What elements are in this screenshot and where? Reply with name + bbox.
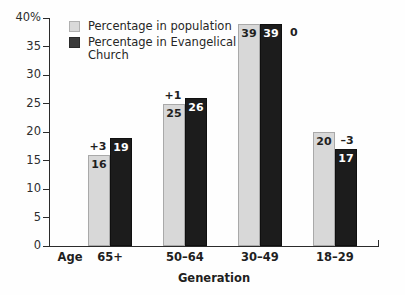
y-axis-tick-mark (43, 103, 50, 104)
y-axis-tick-mark (43, 75, 50, 76)
bar-evangelical-church-30-49: 39 (260, 24, 282, 246)
x-axis-category-label: 50–64 (149, 252, 221, 264)
delta-label: 0 (290, 27, 298, 38)
legend-label-population: Percentage in population (88, 20, 232, 33)
bar-evangelical-church-65-: 19 (110, 138, 132, 246)
bar-value-label: 19 (111, 142, 131, 153)
legend-label-evangelical-church: Percentage in Evangelical Church (88, 36, 259, 62)
y-axis-tick-label: 10 (1, 183, 41, 195)
bar-value-label: 16 (89, 159, 109, 170)
bar-evangelical-church-50-64: 26 (185, 98, 207, 246)
delta-label: –3 (336, 135, 358, 146)
y-axis-tick-label: 40% (1, 12, 41, 24)
x-axis-title: Generation (49, 273, 379, 285)
bar-value-label: 25 (164, 108, 184, 119)
bar-chart: 0510152025303540% Percentage in populati… (0, 0, 405, 295)
bar-value-label: 20 (314, 136, 334, 147)
x-axis-category-label: 18–29 (299, 252, 371, 264)
y-axis-tick-label: 15 (1, 155, 41, 167)
y-axis-tick-label: 25 (1, 98, 41, 110)
bar-value-label: 17 (336, 153, 356, 164)
y-axis-tick-mark (43, 132, 50, 133)
x-axis-category-label: 30–49 (224, 252, 296, 264)
x-axis-line (49, 246, 379, 247)
delta-label: +1 (162, 90, 184, 101)
y-axis-tick-label: 20 (1, 126, 41, 138)
delta-label: +3 (87, 141, 109, 152)
y-axis-tick-label: 30 (1, 69, 41, 81)
x-axis-end-tick (378, 240, 379, 247)
legend-item-evangelical-church: Percentage in Evangelical Church (69, 36, 259, 62)
legend-item-population: Percentage in population (69, 20, 259, 33)
bar-population-65-: 16 (88, 155, 110, 246)
y-axis-tick-mark (43, 246, 50, 247)
bar-evangelical-church-18-29: 17 (335, 149, 357, 246)
y-axis-tick-label: 0 (1, 240, 41, 252)
legend-swatch-population-icon (69, 21, 80, 32)
bar-population-50-64: 25 (163, 104, 185, 247)
y-axis-tick-mark (43, 160, 50, 161)
x-axis-prefix-label: Age (49, 252, 91, 264)
y-axis-tick-label: 5 (1, 212, 41, 224)
y-axis-tick-label: 35 (1, 41, 41, 53)
y-axis-tick-mark (43, 189, 50, 190)
y-axis-tick-mark (43, 217, 50, 218)
bar-value-label: 39 (261, 28, 281, 39)
y-axis-tick-mark (43, 46, 50, 47)
bar-value-label: 26 (186, 102, 206, 113)
legend-swatch-evangelical-church-icon (69, 37, 80, 48)
bar-population-30-49: 39 (238, 24, 260, 246)
bar-population-18-29: 20 (313, 132, 335, 246)
y-axis-tick-mark (43, 18, 50, 19)
legend: Percentage in population Percentage in E… (69, 20, 259, 65)
bar-value-label: 39 (239, 28, 259, 39)
